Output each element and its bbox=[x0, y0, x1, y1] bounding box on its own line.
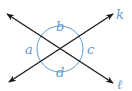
line-l-label: ℓ bbox=[117, 77, 123, 91]
angle-c-label: c bbox=[87, 42, 95, 57]
angle-b-label: b bbox=[56, 19, 64, 34]
intersecting-lines-diagram: k ℓ a b c d bbox=[0, 0, 132, 91]
line-k-label: k bbox=[116, 7, 124, 22]
angle-a-label: a bbox=[25, 42, 33, 57]
angle-d-label: d bbox=[56, 65, 64, 80]
